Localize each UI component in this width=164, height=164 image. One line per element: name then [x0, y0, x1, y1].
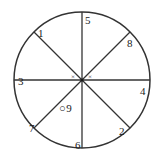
label-2: 2: [119, 126, 125, 137]
angle-mark-right-icon: ×: [88, 74, 92, 81]
label-8: 8: [127, 38, 133, 49]
label-1: 1: [38, 28, 44, 39]
angle-mark-left-icon: ×: [71, 74, 75, 81]
point-marker-9: ○9: [59, 103, 72, 114]
label-5: 5: [85, 15, 91, 26]
label-3: 3: [18, 76, 24, 87]
point-marker-9-label: 9: [66, 102, 72, 114]
circle-diagram-canvas: [0, 0, 164, 164]
label-6: 6: [75, 140, 81, 151]
label-7: 7: [29, 123, 35, 134]
label-4: 4: [140, 86, 146, 97]
circle-diagram-figure: 1 5 8 4 2 6 7 3 × × ○9: [0, 0, 164, 164]
center-point: [80, 78, 83, 81]
